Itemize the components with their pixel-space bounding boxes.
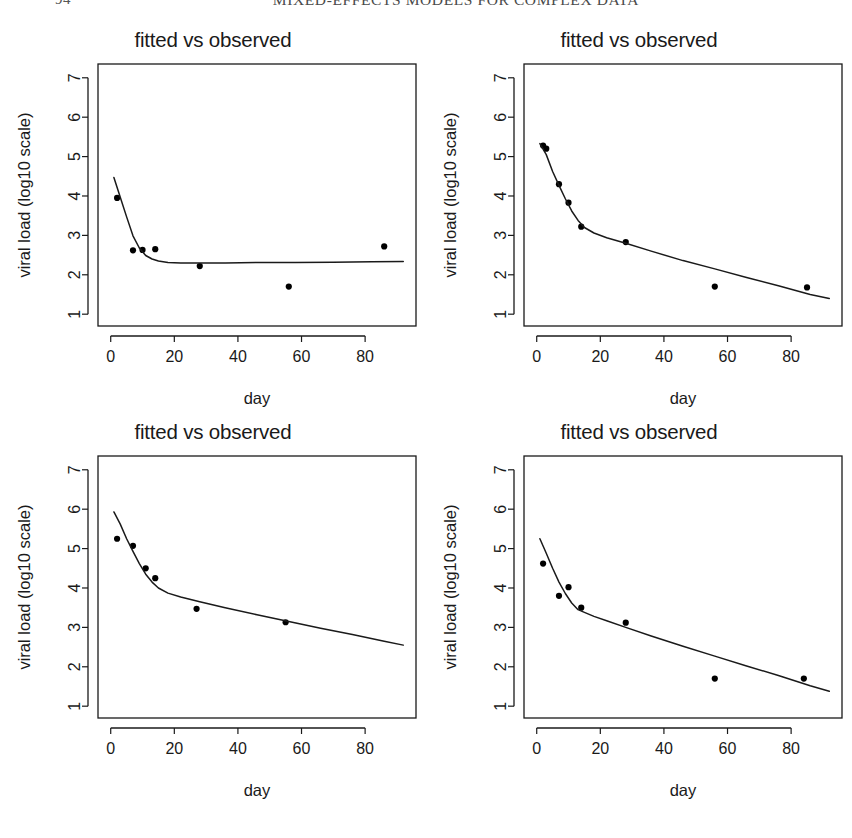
observed-data-point [712, 284, 718, 290]
y-tick-label: 5 [493, 544, 510, 553]
y-tick-label: 4 [493, 191, 510, 200]
x-tick-label: 20 [165, 348, 183, 365]
x-tick-label: 60 [719, 740, 737, 757]
y-tick-label: 7 [67, 73, 84, 82]
plot-frame [524, 456, 842, 718]
y-tick-label: 4 [493, 583, 510, 592]
y-tick-label: 6 [493, 505, 510, 514]
panel-title: fitted vs observed [0, 28, 426, 52]
x-tick-label: 20 [591, 348, 609, 365]
y-tick-label: 4 [67, 583, 84, 592]
y-tick-label: 1 [67, 702, 84, 711]
x-tick-label: 80 [356, 740, 374, 757]
scatter-plot-bottom-right: 1234567020406080dayviral load (log10 sca… [426, 446, 852, 804]
panel-title: fitted vs observed [0, 420, 426, 444]
x-tick-label: 20 [591, 740, 609, 757]
scatter-plot-bottom-left: 1234567020406080dayviral load (log10 sca… [0, 446, 426, 804]
plot-frame [98, 456, 416, 718]
y-tick-label: 3 [493, 231, 510, 240]
plot-panel-bottom-left: fitted vs observed 1234567020406080dayvi… [0, 406, 426, 806]
fitted-curve [540, 144, 829, 299]
x-axis-label: day [670, 389, 697, 407]
observed-data-point [152, 575, 158, 581]
y-tick-label: 5 [493, 152, 510, 161]
y-axis-label: viral load (log10 scale) [15, 112, 33, 277]
y-tick-label: 4 [67, 191, 84, 200]
x-tick-label: 40 [655, 348, 673, 365]
x-tick-label: 60 [293, 740, 311, 757]
x-tick-label: 60 [719, 348, 737, 365]
y-tick-label: 1 [493, 702, 510, 711]
scatter-plot-top-left: 1234567020406080dayviral load (log10 sca… [0, 54, 426, 412]
y-tick-label: 3 [67, 623, 84, 632]
fitted-curve [540, 539, 829, 691]
x-tick-label: 80 [782, 348, 800, 365]
observed-data-point [286, 284, 292, 290]
x-axis-label: day [244, 389, 271, 407]
x-tick-label: 80 [782, 740, 800, 757]
y-axis-label: viral load (log10 scale) [15, 504, 33, 669]
running-header: 94 MIXED-EFFECTS MODELS FOR COMPLEX DATA [0, 0, 852, 11]
observed-data-point [193, 606, 199, 612]
x-tick-label: 20 [165, 740, 183, 757]
x-tick-label: 0 [532, 740, 541, 757]
y-tick-label: 5 [67, 152, 84, 161]
y-tick-label: 2 [67, 662, 84, 671]
x-tick-label: 60 [293, 348, 311, 365]
x-tick-label: 0 [106, 348, 115, 365]
scatter-plot-top-right: 1234567020406080dayviral load (log10 sca… [426, 54, 852, 412]
x-tick-label: 40 [229, 348, 247, 365]
x-tick-label: 40 [655, 740, 673, 757]
running-header-title: MIXED-EFFECTS MODELS FOR COMPLEX DATA [0, 0, 852, 9]
observed-data-point [623, 620, 629, 626]
observed-data-point [540, 560, 546, 566]
observed-data-point [114, 536, 120, 542]
y-tick-label: 6 [67, 113, 84, 122]
x-axis-label: day [670, 781, 697, 799]
y-tick-label: 7 [67, 465, 84, 474]
x-tick-label: 0 [106, 740, 115, 757]
panel-title: fitted vs observed [426, 28, 852, 52]
x-tick-label: 40 [229, 740, 247, 757]
y-tick-label: 2 [493, 662, 510, 671]
y-tick-label: 7 [493, 465, 510, 474]
y-tick-label: 6 [67, 505, 84, 514]
plot-panel-bottom-right: fitted vs observed 1234567020406080dayvi… [426, 406, 852, 806]
observed-data-point [804, 284, 810, 290]
x-tick-label: 0 [532, 348, 541, 365]
plot-frame [98, 64, 416, 326]
y-tick-label: 1 [493, 310, 510, 319]
x-tick-label: 80 [356, 348, 374, 365]
y-tick-label: 5 [67, 544, 84, 553]
x-axis-label: day [244, 781, 271, 799]
observed-data-point [130, 247, 136, 253]
y-tick-label: 2 [67, 270, 84, 279]
y-tick-label: 2 [493, 270, 510, 279]
plot-panel-top-right: fitted vs observed 1234567020406080dayvi… [426, 14, 852, 414]
y-tick-label: 1 [67, 310, 84, 319]
plot-panel-top-left: fitted vs observed 1234567020406080dayvi… [0, 14, 426, 414]
observed-data-point [801, 676, 807, 682]
observed-data-point [712, 676, 718, 682]
observed-data-point [565, 584, 571, 590]
y-axis-label: viral load (log10 scale) [441, 112, 459, 277]
observed-data-point [197, 263, 203, 269]
y-axis-label: viral load (log10 scale) [441, 504, 459, 669]
observed-data-point [152, 246, 158, 252]
observed-data-point [556, 593, 562, 599]
y-tick-label: 6 [493, 113, 510, 122]
y-tick-label: 3 [67, 231, 84, 240]
y-tick-label: 3 [493, 623, 510, 632]
y-tick-label: 7 [493, 73, 510, 82]
plot-panel-grid: fitted vs observed 1234567020406080dayvi… [0, 14, 852, 838]
plot-frame [524, 64, 842, 326]
panel-title: fitted vs observed [426, 420, 852, 444]
observed-data-point [381, 243, 387, 249]
